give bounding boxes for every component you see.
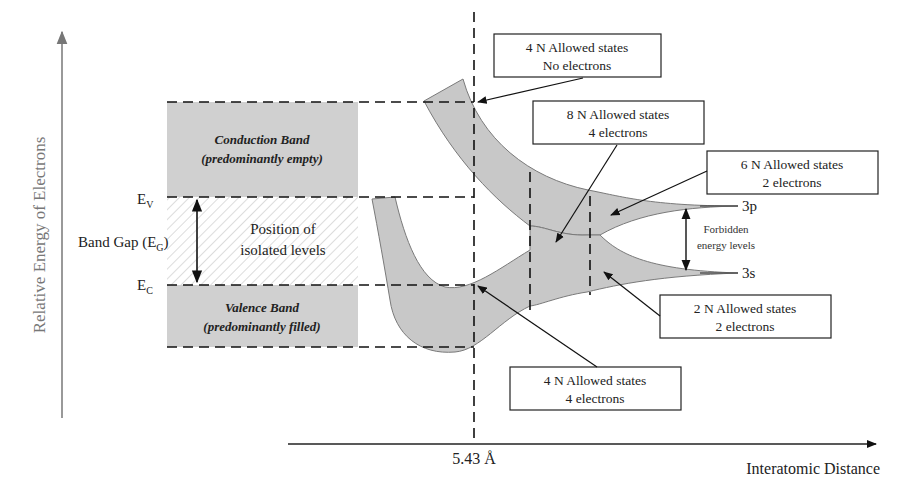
svg-text:2 electrons: 2 electrons <box>716 319 775 334</box>
forbidden-label-line1: Forbidden <box>703 223 749 235</box>
energy-band-diagram: Relative Energy of Electrons Interatomic… <box>0 0 912 503</box>
conduction-band-box <box>167 102 358 197</box>
3p-label: 3p <box>742 198 757 214</box>
band-summary-panel: Conduction Band (predominantly empty) Po… <box>78 102 358 347</box>
svg-text:4 electrons: 4 electrons <box>566 391 625 406</box>
valence-band-subtitle: (predominantly filled) <box>203 319 320 334</box>
ec-label: EC <box>137 277 153 296</box>
isolated-levels-line2: isolated levels <box>240 242 326 258</box>
band-gap-label: Band Gap (EG) <box>78 234 169 253</box>
gap-hatched-region <box>167 197 358 285</box>
y-axis-label: Relative Energy of Electrons <box>30 137 49 334</box>
svg-text:2 N Allowed states: 2 N Allowed states <box>694 301 796 316</box>
svg-text:No electrons: No electrons <box>543 58 612 73</box>
valence-band-box <box>167 285 358 347</box>
x-axis-label: Interatomic Distance <box>746 460 880 477</box>
x-axis: Interatomic Distance 5.43 Å <box>288 444 880 477</box>
lattice-constant-label: 5.43 Å <box>452 450 496 467</box>
y-axis: Relative Energy of Electrons <box>30 32 62 418</box>
svg-text:4 N Allowed states: 4 N Allowed states <box>526 40 628 55</box>
svg-text:2 electrons: 2 electrons <box>763 175 822 190</box>
valence-band-title: Valence Band <box>225 300 300 315</box>
ev-label: EV <box>137 191 154 210</box>
svg-text:6 N Allowed states: 6 N Allowed states <box>741 157 843 172</box>
svg-text:4 electrons: 4 electrons <box>589 125 648 140</box>
svg-text:8 N Allowed states: 8 N Allowed states <box>567 107 669 122</box>
isolated-levels-line1: Position of <box>250 221 315 237</box>
conduction-band-title: Conduction Band <box>214 132 310 147</box>
callout-top-conduction: 4 N Allowed states No electrons <box>478 34 661 102</box>
forbidden-label-line2: energy levels <box>697 239 755 251</box>
3s-label: 3s <box>742 265 756 281</box>
svg-text:4 N Allowed states: 4 N Allowed states <box>544 373 646 388</box>
conduction-band-subtitle: (predominantly empty) <box>201 151 323 166</box>
